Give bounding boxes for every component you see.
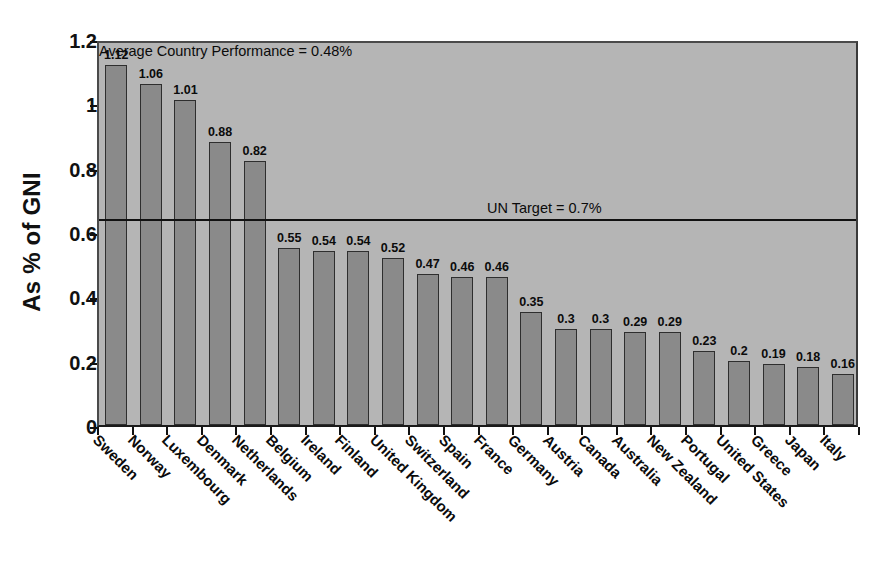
bar-group: 0.3: [583, 43, 618, 425]
bar-group: 0.3: [549, 43, 584, 425]
y-tick-label: 0.4: [41, 287, 97, 310]
bar-value-label: 0.3: [592, 312, 609, 326]
bar-group: 0.52: [376, 43, 411, 425]
y-tick-mark: [90, 105, 97, 107]
bar[interactable]: [520, 312, 542, 425]
un-target-label: UN Target = 0.7%: [487, 200, 602, 216]
bar-value-label: 0.35: [519, 295, 543, 309]
bar[interactable]: [832, 374, 854, 425]
un-target-line: [99, 219, 856, 221]
bar[interactable]: [797, 367, 819, 425]
bar[interactable]: [659, 332, 681, 425]
bar-group: 1.12: [99, 43, 134, 425]
bar-group: 1.06: [134, 43, 169, 425]
bar[interactable]: [140, 84, 162, 425]
bar[interactable]: [763, 364, 785, 425]
bar-group: 0.88: [203, 43, 238, 425]
bar-value-label: 0.2: [730, 344, 747, 358]
y-tick-mark: [90, 170, 97, 172]
bar-group: 0.46: [480, 43, 515, 425]
bar[interactable]: [105, 65, 127, 425]
bar-group: 0.18: [791, 43, 826, 425]
bar[interactable]: [347, 251, 369, 425]
bar[interactable]: [417, 274, 439, 425]
bar-value-label: 0.19: [761, 347, 785, 361]
bar-group: 0.82: [237, 43, 272, 425]
bar-value-label: 0.46: [450, 260, 474, 274]
bar-value-label: 0.18: [796, 350, 820, 364]
bar-group: 0.54: [307, 43, 342, 425]
bar[interactable]: [278, 248, 300, 425]
bar-value-label: 0.29: [658, 315, 682, 329]
bar-chart: As % of GNI 00.20.40.60.811.2 1.121.061.…: [0, 0, 882, 568]
bar-group: 0.2: [722, 43, 757, 425]
x-axis-labels: SwedenNorwayLuxembourgDenmarkNetherlands…: [97, 431, 882, 568]
bar-value-label: 0.29: [623, 315, 647, 329]
y-tick-mark: [90, 234, 97, 236]
plot-area: 1.121.061.010.880.820.550.540.540.520.47…: [97, 41, 858, 427]
bar-group: 0.23: [687, 43, 722, 425]
y-axis: 00.20.40.60.811.2: [33, 0, 97, 568]
bar-group: 0.29: [618, 43, 653, 425]
y-tick-label: 0.8: [41, 158, 97, 181]
bar[interactable]: [451, 277, 473, 425]
bar[interactable]: [209, 142, 231, 425]
bar-value-label: 0.52: [381, 241, 405, 255]
bar-value-label: 0.47: [415, 257, 439, 271]
bar-group: 0.46: [445, 43, 480, 425]
bar[interactable]: [313, 251, 335, 425]
bar-group: 0.55: [272, 43, 307, 425]
bar-value-label: 0.54: [346, 234, 370, 248]
y-tick-mark: [90, 41, 97, 43]
bar-value-label: 0.54: [312, 234, 336, 248]
bars-layer: 1.121.061.010.880.820.550.540.540.520.47…: [99, 43, 856, 425]
bar-group: 0.16: [825, 43, 860, 425]
bar-value-label: 0.88: [208, 125, 232, 139]
bar[interactable]: [728, 361, 750, 425]
bar[interactable]: [486, 277, 508, 425]
bar-value-label: 0.23: [692, 334, 716, 348]
bar-group: 0.47: [410, 43, 445, 425]
bar-value-label: 0.3: [557, 312, 574, 326]
bar-group: 0.35: [514, 43, 549, 425]
bar-value-label: 0.82: [242, 144, 266, 158]
y-tick-label: 0: [41, 416, 97, 439]
y-tick-mark: [90, 427, 97, 429]
y-tick-label: 0.6: [41, 223, 97, 246]
y-tick-label: 1.2: [41, 30, 97, 53]
bar-value-label: 0.55: [277, 231, 301, 245]
bar[interactable]: [244, 161, 266, 425]
bar-group: 0.29: [652, 43, 687, 425]
average-country-performance-label: Average Country Performance = 0.48%: [99, 43, 352, 59]
bar[interactable]: [590, 329, 612, 426]
y-tick-label: 1: [41, 94, 97, 117]
bar-value-label: 0.16: [831, 357, 855, 371]
bar-group: 0.19: [756, 43, 791, 425]
y-tick-mark: [90, 298, 97, 300]
bar[interactable]: [693, 351, 715, 425]
bar[interactable]: [624, 332, 646, 425]
y-tick-label: 0.2: [41, 351, 97, 374]
bar-value-label: 1.06: [139, 67, 163, 81]
bar-group: 0.54: [341, 43, 376, 425]
bar-group: 1.01: [168, 43, 203, 425]
y-tick-mark: [90, 363, 97, 365]
bar-value-label: 1.01: [173, 83, 197, 97]
bar[interactable]: [174, 100, 196, 425]
bar[interactable]: [555, 329, 577, 426]
bar[interactable]: [382, 258, 404, 425]
bar-value-label: 0.46: [485, 260, 509, 274]
